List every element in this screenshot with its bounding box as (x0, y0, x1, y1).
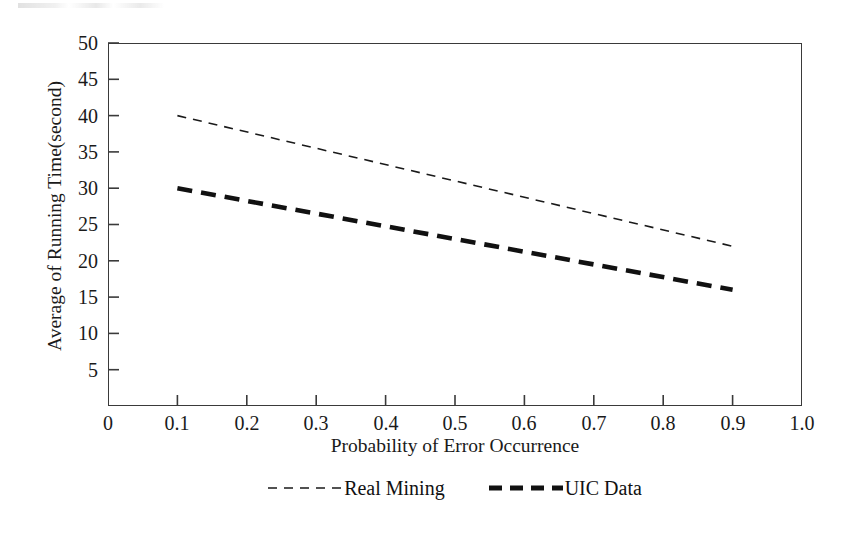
thick-dashed-line-icon (489, 481, 563, 495)
x-axis-title: Probability of Error Occurrence (108, 435, 802, 457)
x-tick-label: 0.5 (425, 413, 485, 433)
x-tick-label: 0 (78, 413, 138, 433)
x-tick-label: 0.3 (286, 413, 346, 433)
thin-dashed-line-icon (268, 481, 342, 495)
x-tick-label: 0.7 (564, 413, 624, 433)
y-tick-label: 50 (38, 33, 98, 53)
chart-figure: 50 45 40 35 30 25 20 15 10 5 0 0.1 0.2 0… (0, 0, 856, 538)
chart-legend: Real Mining UIC Data (108, 478, 802, 498)
x-tick-label: 1.0 (772, 413, 832, 433)
plot-area-frame (108, 43, 802, 406)
legend-entry-uic-data: UIC Data (489, 478, 642, 498)
legend-label: UIC Data (565, 478, 642, 498)
x-tick-label: 0.9 (703, 413, 763, 433)
x-tick-label: 0.8 (633, 413, 693, 433)
legend-label: Real Mining (344, 478, 445, 498)
x-tick-label: 0.4 (356, 413, 416, 433)
x-tick-label: 0.2 (217, 413, 277, 433)
scan-artifact (18, 3, 188, 8)
legend-entry-real-mining: Real Mining (268, 478, 445, 498)
x-tick-label: 0.1 (147, 413, 207, 433)
y-axis-title: Average of Running Time(second) (44, 51, 66, 381)
x-tick-label: 0.6 (494, 413, 554, 433)
